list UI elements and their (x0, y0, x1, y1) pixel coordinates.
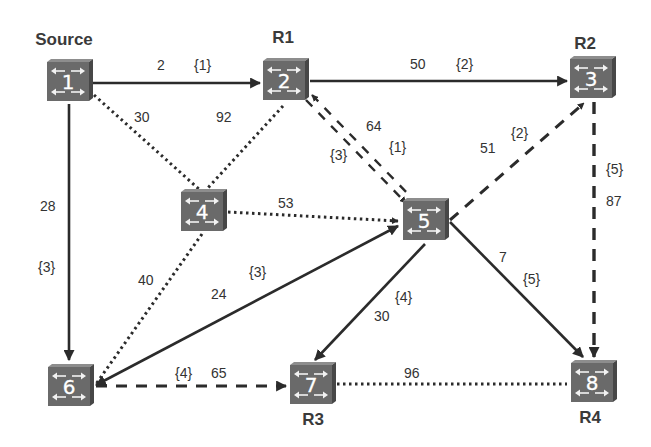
edge-weight: 40 (138, 272, 154, 288)
edge-tag: {5} (606, 161, 623, 177)
edge-tag: {3} (38, 259, 55, 275)
node-number: 1 (62, 70, 75, 94)
edge-tag: {1} (194, 57, 211, 73)
node-6[interactable]: 6 (48, 364, 94, 406)
edge-weight: 53 (278, 195, 294, 211)
edge-weight: 30 (374, 308, 390, 324)
edge-weight: 24 (211, 286, 227, 302)
edge-6-5 (96, 226, 398, 385)
edge-weight: 92 (216, 109, 232, 125)
network-diagram: 1 2 3 4 5 6 7 8 Source R1 R2 R3 R4 2 {1}… (0, 0, 651, 447)
node-title-source: Source (35, 30, 93, 49)
node-number: 6 (63, 375, 76, 399)
node-number: 7 (305, 373, 318, 397)
edge-weight: 2 (157, 57, 165, 73)
node-number: 2 (278, 69, 291, 93)
node-3[interactable]: 3 (570, 56, 616, 98)
edge-tag: {4} (175, 365, 192, 381)
edge-weight: 28 (40, 198, 56, 214)
node-number: 8 (586, 371, 599, 395)
edge-4-6 (96, 234, 202, 384)
edge-tag: {2} (511, 125, 528, 141)
node-number: 5 (418, 209, 431, 233)
node-title-r3: R3 (302, 410, 324, 429)
node-2[interactable]: 2 (263, 58, 309, 100)
edge-weight: 64 (366, 118, 382, 134)
node-8[interactable]: 8 (571, 360, 617, 402)
edge-tag: {3} (330, 147, 347, 163)
edge-tag: {2} (456, 56, 473, 72)
node-number: 3 (585, 67, 598, 91)
edge-weight: 30 (134, 109, 150, 125)
edge-5-3 (450, 103, 584, 220)
edge-4-5 (228, 212, 398, 221)
node-1[interactable]: 1 (47, 59, 93, 101)
node-title-r1: R1 (272, 28, 294, 47)
edge-weight: 87 (606, 193, 622, 209)
node-7[interactable]: 7 (290, 362, 336, 404)
edge-weight: 96 (404, 365, 420, 381)
node-4[interactable]: 4 (181, 189, 227, 231)
node-5[interactable]: 5 (403, 198, 449, 240)
edge-tag: {4} (395, 289, 412, 305)
node-title-r2: R2 (574, 34, 596, 53)
edge-tag: {3} (249, 264, 266, 280)
edge-weight: 65 (211, 365, 227, 381)
edge-5-8 (450, 222, 583, 357)
edge-weight: 7 (499, 249, 507, 265)
edge-tag: {1} (389, 139, 406, 155)
edge-weight: 50 (410, 56, 426, 72)
node-number: 4 (196, 200, 209, 224)
node-title-r4: R4 (579, 408, 601, 427)
edge-weight: 51 (480, 140, 496, 156)
edge-tag: {5} (523, 271, 540, 287)
